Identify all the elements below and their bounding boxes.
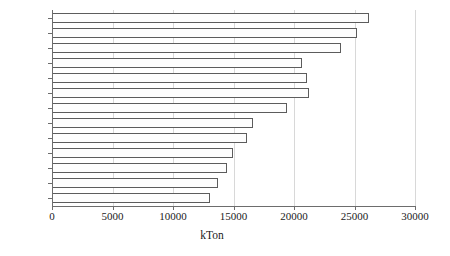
- bar-row: [52, 116, 415, 131]
- bar-row: [52, 176, 415, 191]
- bar-2018: [52, 58, 302, 68]
- x-axis-title-label: kTon: [200, 229, 223, 241]
- bar-2019: [52, 43, 341, 53]
- y-tick-2011: [48, 168, 52, 169]
- y-tick-2015: [48, 108, 52, 109]
- x-tick-label-15000: 15000: [220, 211, 248, 222]
- bar-2014: [52, 118, 253, 128]
- bar-row: [52, 55, 415, 70]
- x-tick-label-25000: 25000: [341, 211, 369, 222]
- y-tick-2019: [48, 48, 52, 49]
- x-tick-label-0: 0: [49, 211, 55, 222]
- y-tick-2014: [48, 123, 52, 124]
- y-axis-line: [52, 10, 53, 206]
- bar-2016: [52, 88, 309, 98]
- y-tick-2016: [48, 93, 52, 94]
- bar-2009: [52, 193, 210, 203]
- bar-chart: 2021202020192018201720162015201420132012…: [0, 0, 450, 256]
- bar-2012: [52, 148, 233, 158]
- bar-2013: [52, 133, 247, 143]
- y-tick-2009: [48, 198, 52, 199]
- y-tick-2020: [48, 33, 52, 34]
- bar-row: [52, 131, 415, 146]
- bar-2017: [52, 73, 307, 83]
- bar-row: [52, 100, 415, 115]
- x-tick-label-20000: 20000: [280, 211, 308, 222]
- x-axis-title: kTon: [0, 229, 450, 241]
- y-tick-2017: [48, 78, 52, 79]
- plot-area: [52, 10, 415, 206]
- bar-2015: [52, 103, 287, 113]
- bar-row: [52, 161, 415, 176]
- bars-layer: [52, 10, 415, 206]
- gridline-30000: [415, 10, 416, 206]
- y-tick-2021: [48, 18, 52, 19]
- bar-row: [52, 40, 415, 55]
- bar-2021: [52, 13, 369, 23]
- y-tick-2010: [48, 183, 52, 184]
- x-tick-label-5000: 5000: [102, 211, 124, 222]
- bar-row: [52, 85, 415, 100]
- x-tick-label-10000: 10000: [159, 211, 187, 222]
- y-tick-2012: [48, 153, 52, 154]
- bar-2010: [52, 178, 218, 188]
- bar-2011: [52, 163, 227, 173]
- bar-row: [52, 146, 415, 161]
- bar-row: [52, 25, 415, 40]
- bar-row: [52, 191, 415, 206]
- bar-2020: [52, 28, 357, 38]
- bar-row: [52, 70, 415, 85]
- y-tick-2013: [48, 138, 52, 139]
- bar-row: [52, 10, 415, 25]
- y-tick-2018: [48, 63, 52, 64]
- x-tick-label-30000: 30000: [401, 211, 429, 222]
